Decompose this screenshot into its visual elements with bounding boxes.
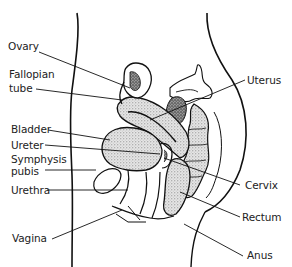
label-ureter: Ureter <box>11 139 44 151</box>
label-symphysis-pubis-line1: Symphysis <box>11 153 67 165</box>
label-urethra: Urethra <box>11 184 50 196</box>
body-outline-back <box>205 13 246 212</box>
vagina-shape <box>140 172 160 218</box>
label-ovary: Ovary <box>8 40 39 52</box>
body-outline-buttock <box>191 212 205 267</box>
label-fallopian-tube-line1: Fallopian <box>9 68 55 80</box>
rectum-shape <box>164 159 190 215</box>
label-rectum: Rectum <box>242 211 281 223</box>
label-fallopian-tube-line2: tube <box>9 82 33 94</box>
label-uterus: Uterus <box>247 74 281 86</box>
label-symphysis-pubis-line2: pubis <box>11 165 39 177</box>
label-vagina: Vagina <box>12 232 47 244</box>
label-cervix: Cervix <box>245 179 278 191</box>
label-bladder: Bladder <box>11 123 51 135</box>
label-anus: Anus <box>247 249 273 261</box>
